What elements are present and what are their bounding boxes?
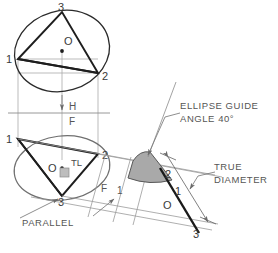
front-center-label-o: O: [48, 162, 57, 174]
fold-label-h: H: [69, 101, 76, 112]
aux-point-label-2: 2: [165, 168, 171, 180]
aux-point-label-1: 1: [175, 185, 181, 197]
note-ellipse-guide-line2: ANGLE 40°: [180, 113, 234, 124]
top-vertex-label-3: 3: [58, 1, 64, 13]
fold-label-f2: F: [101, 183, 107, 194]
note-ellipse-guide-line1: ELLIPSE GUIDE: [180, 100, 258, 111]
fold-line-hf: H F: [8, 101, 110, 127]
aux-point-label-o: O: [163, 199, 172, 211]
top-center-label-o: O: [64, 35, 73, 47]
note-parallel-text: PARALLEL: [22, 217, 74, 228]
fold-label-1: 1: [117, 185, 123, 196]
fold-line-f1: F 1: [101, 183, 123, 196]
true-length-label: TL: [71, 157, 82, 168]
top-vertex-label-1: 1: [6, 53, 12, 65]
top-vertex-label-2: 2: [102, 70, 108, 82]
drawing-canvas: H F 1 2 3 O 1 2 3 O TL F 1: [0, 0, 278, 253]
note-true-diameter-line1: TRUE: [214, 161, 242, 172]
projection-lines: [18, 51, 98, 160]
aux-point-label-3: 3: [193, 228, 199, 240]
note-true-diameter-line2: DIAMETER: [214, 174, 268, 185]
fold-label-f: F: [69, 116, 75, 127]
front-vertex-label-1: 1: [6, 133, 12, 145]
